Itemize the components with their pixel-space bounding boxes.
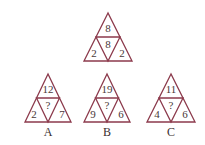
example-right-value: 2 (119, 47, 125, 59)
option-c-top-value: 11 (166, 83, 177, 95)
option-b-label: B (103, 125, 111, 139)
example-top-value: 8 (105, 22, 111, 34)
option-b-triangle[interactable]: 19 ? 9 6 B (84, 74, 130, 139)
option-b-left-value: 9 (90, 108, 96, 120)
option-a-right-value: 7 (59, 108, 65, 120)
example-center-value: 8 (105, 38, 111, 50)
option-c-triangle[interactable]: 11 ? 4 6 C (147, 74, 195, 139)
option-a-left-value: 2 (31, 108, 37, 120)
option-b-top-value: 19 (102, 83, 114, 95)
option-a-top-value: 12 (43, 83, 54, 95)
example-left-value: 2 (91, 47, 97, 59)
example-triangle: 8 8 2 2 (84, 13, 132, 61)
option-b-center-value: ? (105, 99, 110, 111)
option-a-center-value: ? (46, 99, 51, 111)
option-a-triangle[interactable]: 12 ? 2 7 A (25, 74, 71, 139)
puzzle-diagram: 8 8 2 2 12 ? 2 7 A 19 ? 9 6 B 11 ? 4 6 C (0, 0, 205, 145)
option-c-left-value: 4 (154, 108, 160, 120)
option-c-right-value: 6 (182, 108, 188, 120)
option-b-right-value: 6 (118, 108, 124, 120)
option-c-label: C (167, 125, 175, 139)
option-c-center-value: ? (169, 99, 174, 111)
option-a-label: A (44, 125, 53, 139)
